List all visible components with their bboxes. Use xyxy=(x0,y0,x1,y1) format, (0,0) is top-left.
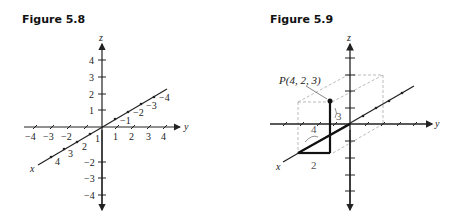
z-tick-label: 2 xyxy=(89,89,94,100)
point-p-label: P(4, 2, 3) xyxy=(278,74,321,87)
x-tick-label: 3 xyxy=(68,148,73,159)
x-tick-label: 1 xyxy=(95,133,100,144)
y-axis-label: y xyxy=(183,121,189,132)
figures-canvas: z 4 3 2 1 −2 −3 −4 y − xyxy=(0,0,460,220)
y-axis-label: y xyxy=(434,118,440,129)
x-tick-label: −2 xyxy=(133,107,144,118)
z-axis-label: z xyxy=(346,32,351,43)
z-axis-label: z xyxy=(98,32,103,43)
y-tick-label: −4 xyxy=(25,131,36,142)
z-tick-label: 4 xyxy=(89,55,94,66)
x-tick-label: 2 xyxy=(82,141,87,152)
point-p-leader xyxy=(306,86,327,99)
point-p xyxy=(328,99,333,104)
x-brace xyxy=(305,136,318,142)
y-tick-label: 1 xyxy=(113,131,118,142)
z-tick-label: −2 xyxy=(84,157,95,168)
x-tick-label: 4 xyxy=(55,156,60,167)
y-tick-label: 4 xyxy=(161,131,166,142)
z-tick-label: −4 xyxy=(84,190,95,201)
z-tick-label: −3 xyxy=(84,173,95,184)
x-tick-label: −3 xyxy=(146,100,157,111)
x-axis-label: x xyxy=(29,163,35,174)
z-length-label: 3 xyxy=(336,110,342,122)
x-tick-label: −4 xyxy=(159,92,170,103)
y-length-label: 2 xyxy=(311,159,317,171)
z-tick-label: 1 xyxy=(89,105,94,116)
y-tick-label: 2 xyxy=(129,131,134,142)
z-tick-label: 3 xyxy=(89,72,94,83)
x-segment xyxy=(298,124,350,153)
x-length-label: 4 xyxy=(311,123,317,135)
y-tick-label: 3 xyxy=(146,131,151,142)
figure-5-8: z 4 3 2 1 −2 −3 −4 y − xyxy=(24,32,189,210)
y-tick-label: −3 xyxy=(43,131,54,142)
y-tick-label: −2 xyxy=(61,131,72,142)
x-tick-label: −1 xyxy=(120,115,131,126)
figure-5-9: z y x xyxy=(270,32,440,210)
x-axis-label: x xyxy=(275,161,281,172)
